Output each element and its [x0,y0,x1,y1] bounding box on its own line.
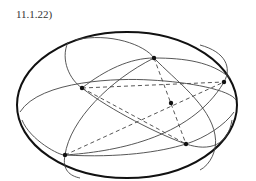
great-circle-2 [65,45,227,155]
great-circle-7 [64,58,154,178]
point-A [152,56,156,60]
point-D [80,86,84,90]
great-circle-5 [82,58,230,88]
sphere-outline [17,32,237,178]
great-circle-6 [75,38,216,170]
great-circle-3 [22,112,234,156]
point-C [169,101,173,105]
point-B [222,80,226,84]
diameter-D-C [82,88,186,144]
diameter-A-F [154,58,186,144]
diameter-D-F [82,82,224,88]
point-F [184,142,188,146]
sphere-diagram [0,0,256,181]
point-E [63,153,67,157]
